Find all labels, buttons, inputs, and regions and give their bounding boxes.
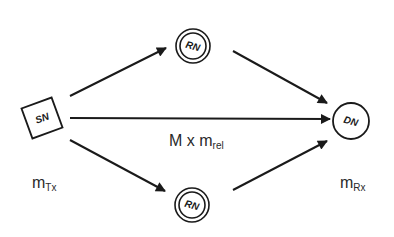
edge-rn-bottom-to-dn [233, 141, 327, 190]
diagram-graphics: SN RN RN DN [0, 0, 394, 237]
direct-link-label-sub: rel [213, 140, 224, 151]
edge-sn-to-rn-top [70, 48, 166, 96]
edge-sn-to-dn [70, 118, 330, 119]
source-node: SN [21, 97, 62, 138]
receiver-label-main: m [340, 174, 353, 191]
relay-node-top: RN [176, 29, 210, 63]
edge-sn-to-rn-bottom [70, 140, 165, 191]
receiver-label: mRx [340, 174, 366, 193]
direct-link-label-main: M x m [169, 132, 213, 149]
transmitter-label: mTx [32, 174, 56, 193]
relay-node-bottom: RN [175, 188, 209, 222]
relay-diagram: SN RN RN DN M x mrel mTx mRx [0, 0, 394, 237]
transmitter-label-sub: Tx [45, 182, 56, 193]
receiver-label-sub: Rx [353, 182, 365, 193]
destination-node: DN [333, 103, 369, 139]
transmitter-label-main: m [32, 174, 45, 191]
direct-link-label: M x mrel [169, 132, 224, 151]
edge-rn-top-to-dn [233, 51, 327, 103]
